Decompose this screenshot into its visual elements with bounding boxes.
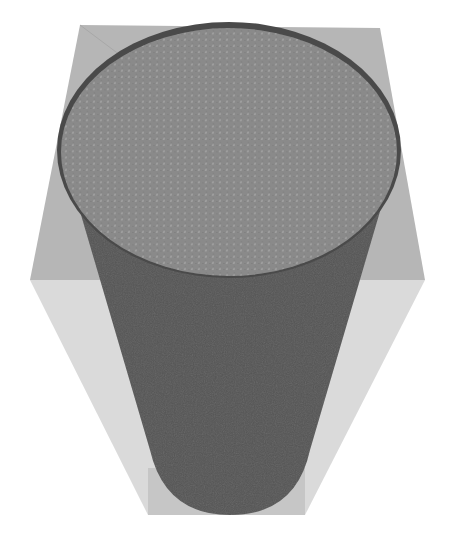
packed-cylinder-render [0, 0, 449, 545]
